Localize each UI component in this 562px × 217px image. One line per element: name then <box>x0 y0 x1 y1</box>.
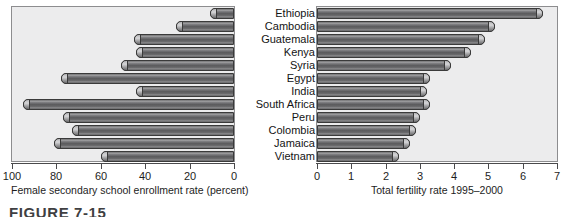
bar-row <box>12 112 234 124</box>
bar-cap-icon <box>420 86 427 97</box>
axis-tick <box>488 164 489 169</box>
axis-tick <box>351 164 352 169</box>
bar-ethiopia[interactable] <box>210 8 234 19</box>
figure-caption: FIGURE 7-15 <box>9 204 106 217</box>
axis-tick-label: 4 <box>451 170 457 182</box>
category-label-kenya: Kenya <box>236 46 315 58</box>
axis-tick <box>523 164 524 169</box>
category-label-egypt: Egypt <box>236 72 315 84</box>
bar-cambodia[interactable] <box>176 21 234 32</box>
bar-cap-icon <box>210 8 217 19</box>
bar-cap-icon <box>63 112 70 123</box>
bar-cap-icon <box>413 112 420 123</box>
bar-cap-icon <box>403 138 410 149</box>
bar-cap-icon <box>61 73 68 84</box>
axis-tick <box>420 164 421 169</box>
bar-row <box>317 112 557 124</box>
bar-cap-icon <box>536 8 543 19</box>
bar-row <box>317 151 557 163</box>
category-label-ethiopia: Ethiopia <box>236 7 315 19</box>
bar-guatemala[interactable] <box>134 34 234 45</box>
bar-row <box>12 21 234 33</box>
bar-row <box>12 47 234 59</box>
bar-egypt[interactable] <box>61 73 234 84</box>
bar-row <box>12 34 234 46</box>
plot-area-fertility <box>317 7 557 161</box>
bar-india[interactable] <box>136 86 234 97</box>
axis-tick <box>454 164 455 169</box>
bar-jamaica[interactable] <box>54 138 234 149</box>
plot-area-enrollment <box>12 7 234 161</box>
bar-cap-icon <box>54 138 61 149</box>
bar-row <box>12 60 234 72</box>
bar-cap-icon <box>134 34 141 45</box>
bar-cap-icon <box>392 151 399 162</box>
bar-peru[interactable] <box>63 112 234 123</box>
bar-row <box>317 21 557 33</box>
bar-south-africa[interactable] <box>317 99 430 110</box>
bar-vietnam[interactable] <box>317 151 399 162</box>
bar-row <box>12 151 234 163</box>
bar-india[interactable] <box>317 86 427 97</box>
axis-tick-label: 2 <box>383 170 389 182</box>
category-label-jamaica: Jamaica <box>236 137 315 149</box>
x-axis-label-fertility: Total fertility rate 1995–2000 <box>316 184 558 196</box>
category-label-vietnam: Vietnam <box>236 150 315 162</box>
bar-cap-icon <box>409 125 416 136</box>
bar-cap-icon <box>136 86 143 97</box>
bar-guatemala[interactable] <box>317 34 485 45</box>
bar-row <box>317 47 557 59</box>
bar-row <box>317 99 557 111</box>
category-label-cambodia: Cambodia <box>236 20 315 32</box>
bar-syria[interactable] <box>121 60 234 71</box>
bar-cap-icon <box>464 47 471 58</box>
bar-colombia[interactable] <box>72 125 234 136</box>
axis-tick-label: 6 <box>520 170 526 182</box>
bar-south-africa[interactable] <box>23 99 234 110</box>
axis-tick-label: 3 <box>417 170 423 182</box>
bar-cap-icon <box>23 99 30 110</box>
bar-ethiopia[interactable] <box>317 8 543 19</box>
bar-cap-icon <box>72 125 79 136</box>
bar-cap-icon <box>423 99 430 110</box>
bar-row <box>317 8 557 20</box>
bar-row <box>317 86 557 98</box>
bar-cap-icon <box>121 60 128 71</box>
bar-row <box>317 73 557 85</box>
bar-cambodia[interactable] <box>317 21 495 32</box>
bar-cap-icon <box>176 21 183 32</box>
bar-kenya[interactable] <box>317 47 471 58</box>
bar-peru[interactable] <box>317 112 420 123</box>
bar-egypt[interactable] <box>317 73 430 84</box>
bar-vietnam[interactable] <box>101 151 234 162</box>
axis-tick-label: 0 <box>314 170 320 182</box>
bar-row <box>12 8 234 20</box>
axis-tick <box>386 164 387 169</box>
category-label-colombia: Colombia <box>236 124 315 136</box>
category-label-peru: Peru <box>236 111 315 123</box>
bar-row <box>317 125 557 137</box>
bar-row <box>12 86 234 98</box>
category-label-guatemala: Guatemala <box>236 33 315 45</box>
category-labels: EthiopiaCambodiaGuatemalaKenyaSyriaEgypt… <box>236 6 315 162</box>
bar-colombia[interactable] <box>317 125 416 136</box>
bar-cap-icon <box>444 60 451 71</box>
bar-jamaica[interactable] <box>317 138 410 149</box>
bar-row <box>317 34 557 46</box>
chart-panel-enrollment <box>11 6 235 162</box>
bar-cap-icon <box>136 47 143 58</box>
bar-cap-icon <box>423 73 430 84</box>
x-axis-ticks-fertility: 01234567 <box>0 164 562 186</box>
category-label-syria: Syria <box>236 59 315 71</box>
figure-container: 100806040200 Female secondary school enr… <box>0 0 562 217</box>
axis-tick <box>557 164 558 169</box>
bar-row <box>12 73 234 85</box>
bar-cap-icon <box>478 34 485 45</box>
axis-tick-label: 1 <box>348 170 354 182</box>
chart-panel-fertility <box>316 6 558 162</box>
axis-tick-label: 7 <box>554 170 560 182</box>
bar-cap-icon <box>488 21 495 32</box>
bar-cap-icon <box>101 151 108 162</box>
bar-syria[interactable] <box>317 60 451 71</box>
bar-kenya[interactable] <box>136 47 234 58</box>
